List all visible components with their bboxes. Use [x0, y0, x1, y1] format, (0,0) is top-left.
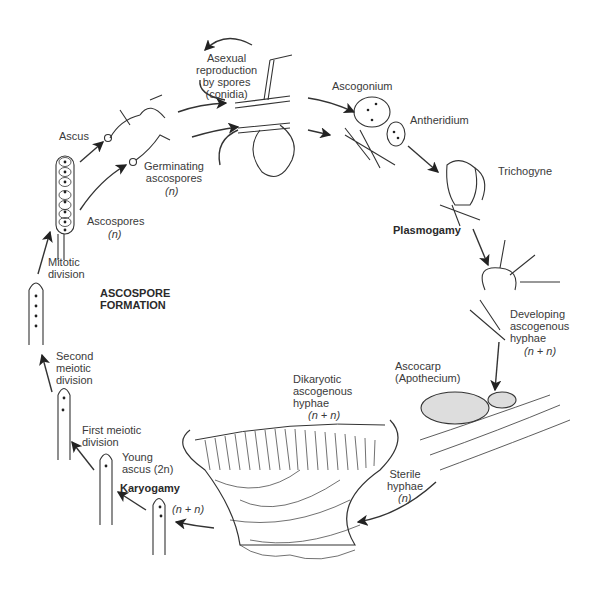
label-karyogamy: Karyogamy [120, 482, 180, 494]
life-cycle-illustration [0, 0, 590, 596]
arrow-germ-to-coil [192, 127, 238, 137]
label-ascospores-ploidy: (n) [108, 228, 121, 240]
arrow-to-trichogyne [408, 146, 438, 172]
arrow-germ-to-conidia [178, 103, 226, 112]
arrow-conidia-loop [205, 39, 252, 50]
arrow-ascus-to-germ2 [80, 165, 126, 210]
label-germinating-ploidy: (n) [165, 185, 178, 197]
arrow-to-ascogonium [308, 98, 354, 112]
arrow-to-nn-ascus [176, 522, 214, 528]
label-developing-hyphae: Developing ascogenous hyphae [510, 308, 569, 344]
arrow-second-meiotic [42, 355, 52, 392]
label-ascogonium: Ascogonium [332, 80, 393, 92]
arrow-karyogamy [118, 492, 146, 510]
label-developing-ploidy: (n + n) [524, 345, 556, 357]
label-ascus: Ascus [59, 130, 89, 142]
label-ascospore-formation: ASCOSPORE FORMATION [100, 287, 170, 311]
label-dikaryotic-ploidy: (n + n) [308, 409, 340, 421]
label-antheridium: Antheridium [410, 114, 469, 126]
label-nn: (n + n) [172, 503, 204, 515]
label-sterile-ploidy: (n) [398, 492, 411, 504]
label-ascocarp: Ascocarp (Apothecium) [395, 360, 460, 384]
label-young-ascus: Young ascus (2n) [122, 451, 173, 475]
label-mitotic: Mitotic division [48, 256, 85, 280]
arrow-ascus-to-germ1 [80, 142, 103, 162]
label-trichogyne: Trichogyne [498, 165, 552, 177]
label-plasmogamy: Plasmogamy [393, 224, 461, 236]
label-germinating: Germinating ascospores [144, 160, 204, 184]
label-ascospores: Ascospores [87, 215, 144, 227]
label-asexual-reproduction: Asexual reproduction by spores (conidia) [196, 52, 257, 100]
arrow-to-ascogonium-2 [308, 130, 330, 135]
label-dikaryotic-hyphae: Dikaryotic ascogenous hyphae [293, 373, 352, 409]
arrow-to-ascocarp [495, 342, 499, 390]
arrow-plasmogamy [473, 229, 488, 265]
label-sterile-hyphae: Sterile hyphae [387, 468, 423, 492]
label-first-meiotic: First meiotic division [82, 424, 141, 448]
label-second-meiotic: Second meiotic division [56, 350, 93, 386]
